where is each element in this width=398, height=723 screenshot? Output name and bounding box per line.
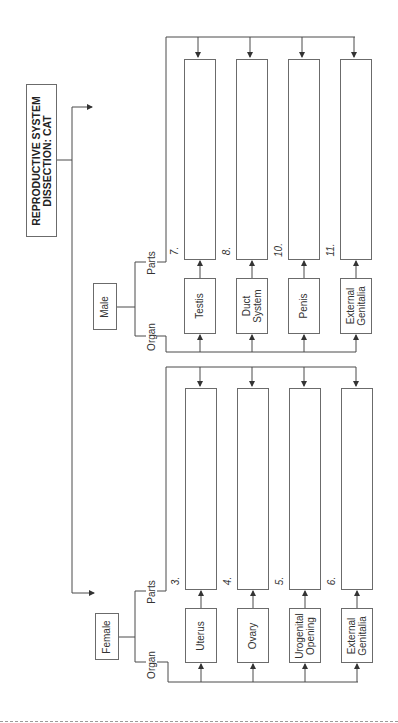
- female-number-4: 6.: [325, 573, 339, 589]
- female-number-1: 3.: [169, 573, 183, 589]
- male-parts-text: Parts: [147, 251, 158, 274]
- female-parts-field-4[interactable]: [341, 388, 373, 590]
- male-parts-label: Parts: [140, 256, 164, 270]
- male-organ-testis-label: Testis: [195, 293, 206, 319]
- male-number-3: 10.: [272, 240, 286, 260]
- male-parts-field-4[interactable]: [340, 59, 372, 260]
- male-organ-external-genitalia: External Genitalia: [340, 278, 372, 334]
- female-parts-field-3[interactable]: [289, 388, 321, 590]
- male-number-3-text: 10.: [274, 243, 285, 257]
- female-parts-field-2[interactable]: [237, 388, 269, 590]
- female-organ-ovary-label: Ovary: [248, 622, 259, 649]
- female-number-2: 4.: [221, 573, 235, 589]
- title-line-2: DISSECTION: CAT: [42, 96, 53, 226]
- female-number-1-text: 3.: [171, 577, 182, 585]
- female-organ-urogenital-opening: Urogenital Opening: [289, 608, 321, 663]
- male-label: Male: [100, 296, 111, 318]
- male-organ-duct-system: Duct System: [236, 278, 268, 334]
- female-organ-ovary: Ovary: [237, 608, 269, 663]
- male-number-1: 7.: [168, 243, 182, 259]
- female-organ-urogenital-label: Urogenital Opening: [295, 609, 316, 663]
- female-organ-uterus: Uterus: [185, 608, 217, 663]
- title-line-1: REPRODUCTIVE SYSTEM: [30, 96, 41, 226]
- female-number-4-text: 6.: [327, 577, 338, 585]
- male-number-4-text: 11.: [326, 243, 337, 256]
- male-organ-duct-label: Duct System: [242, 284, 263, 328]
- male-organ-testis: Testis: [184, 278, 216, 334]
- cut-line-divider: [0, 721, 398, 722]
- female-parts-label: Parts: [140, 585, 164, 599]
- title-text: REPRODUCTIVE SYSTEM DISSECTION: CAT: [30, 96, 52, 226]
- female-organ-text: Organ: [147, 651, 158, 679]
- male-number-1-text: 7.: [170, 247, 181, 255]
- female-number-3: 5.: [273, 573, 287, 589]
- female-number-3-text: 5.: [275, 577, 286, 585]
- male-parts-field-1[interactable]: [184, 59, 216, 260]
- male-parts-field-2[interactable]: [236, 59, 268, 260]
- female-parts-field-1[interactable]: [185, 388, 217, 590]
- male-organ-penis-label: Penis: [299, 293, 310, 318]
- male-number-2-text: 8.: [222, 247, 233, 255]
- male-number-2: 8.: [220, 243, 234, 259]
- female-organ-label: Organ: [140, 658, 164, 672]
- male-number-4: 11.: [324, 240, 338, 260]
- male-parts-field-3[interactable]: [288, 59, 320, 260]
- female-box: Female: [95, 613, 119, 660]
- male-box: Male: [93, 283, 117, 330]
- female-number-2-text: 4.: [223, 577, 234, 585]
- female-organ-uterus-label: Uterus: [196, 621, 207, 650]
- male-organ-label: Organ: [140, 330, 164, 344]
- female-organ-external-genitalia: External Genitalia: [341, 608, 373, 663]
- male-organ-ext-label: External Genitalia: [346, 280, 367, 332]
- female-parts-text: Parts: [147, 580, 158, 603]
- male-organ-text: Organ: [147, 323, 158, 351]
- female-label: Female: [102, 620, 113, 653]
- male-organ-penis: Penis: [288, 278, 320, 334]
- title-box: REPRODUCTIVE SYSTEM DISSECTION: CAT: [26, 84, 57, 237]
- female-organ-ext-label: External Genitalia: [347, 610, 368, 662]
